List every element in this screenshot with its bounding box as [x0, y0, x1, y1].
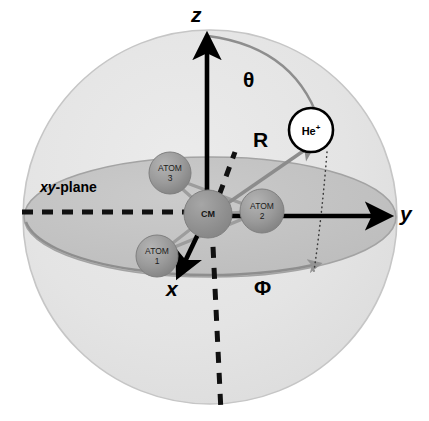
helium-ion-charge: +	[316, 123, 321, 132]
spherical-coordinate-diagram: z y x θ Φ R xy-plane ATOM 3 ATOM 1 ATOM …	[0, 0, 429, 421]
atom-2-label: ATOM 2	[238, 202, 286, 221]
xy-plane-label-suffix: -plane	[56, 179, 97, 195]
azimuthal-angle-label: Φ	[254, 277, 271, 298]
z-axis-label: z	[191, 4, 202, 25]
atom-1-label: ATOM 1	[133, 247, 181, 266]
xy-plane-label: xy-plane	[40, 180, 97, 194]
polar-angle-label: θ	[243, 69, 254, 90]
center-of-mass-label: CM	[188, 209, 228, 219]
atom-3-label: ATOM 3	[146, 164, 194, 183]
atom-3-line2: 3	[146, 174, 194, 184]
xy-plane-label-prefix: xy	[40, 179, 56, 195]
x-axis-label: x	[166, 278, 178, 299]
atom-2-line2: 2	[238, 212, 286, 222]
helium-ion-symbol: He	[302, 125, 316, 137]
atom-1-line2: 1	[133, 257, 181, 267]
helium-ion-label: He+	[289, 123, 333, 137]
y-axis-label: y	[400, 203, 412, 224]
position-vector-label: R	[253, 129, 268, 150]
